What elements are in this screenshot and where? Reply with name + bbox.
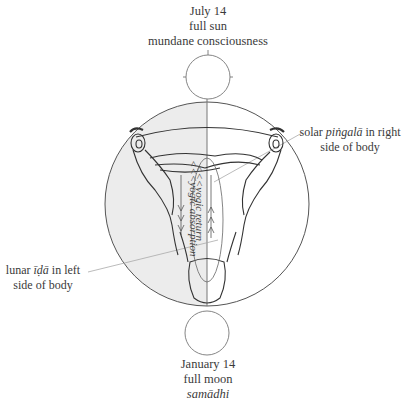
bottom-date: January 14 <box>128 357 288 372</box>
moon-circle <box>185 311 229 355</box>
bottom-phase: full moon <box>128 372 288 387</box>
bottom-label: January 14 full moon samādhi <box>128 357 288 402</box>
right-label-line1: solar piṅgalā in right <box>298 125 402 140</box>
left-label-line2: side of body <box>0 278 86 293</box>
right-label-line2: side of body <box>298 140 402 155</box>
left-label-line1: lunar īḍā in left <box>0 263 86 278</box>
right-label: solar piṅgalā in right side of body <box>298 125 402 155</box>
pingala-term: piṅgalā <box>326 125 363 139</box>
ida-term: īḍā <box>33 263 48 277</box>
sun-circle <box>186 55 230 99</box>
yogic-return-text: <<<yogic return <box>194 165 206 241</box>
left-label: lunar īḍā in left side of body <box>0 263 86 293</box>
bottom-state: samādhi <box>128 387 288 402</box>
ascending-arrows <box>208 175 214 238</box>
